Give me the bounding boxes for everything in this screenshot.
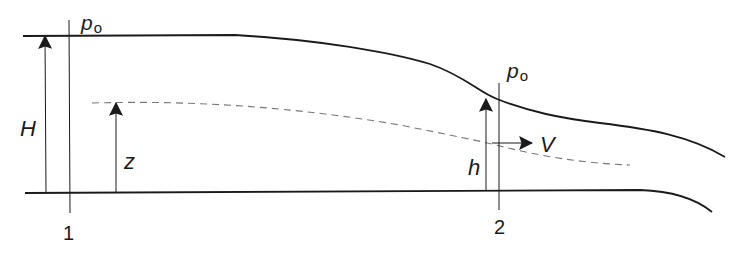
pressure-label-2: po: [506, 59, 528, 84]
station-1-line: [69, 20, 70, 213]
H-label: H: [20, 116, 36, 141]
H-arrow: [45, 36, 46, 193]
diagram-svg: po po H z h V 1 2: [0, 0, 749, 253]
station-2-label: 2: [494, 216, 505, 238]
channel-bottom: [25, 190, 712, 212]
pressure-label-1: po: [80, 11, 102, 36]
h-label: h: [468, 155, 480, 180]
z-label: z: [123, 149, 135, 174]
V-label: V: [540, 132, 557, 157]
free-surface: [23, 35, 725, 157]
station-1-label: 1: [63, 222, 74, 244]
flow-diagram: po po H z h V 1 2: [0, 0, 749, 253]
